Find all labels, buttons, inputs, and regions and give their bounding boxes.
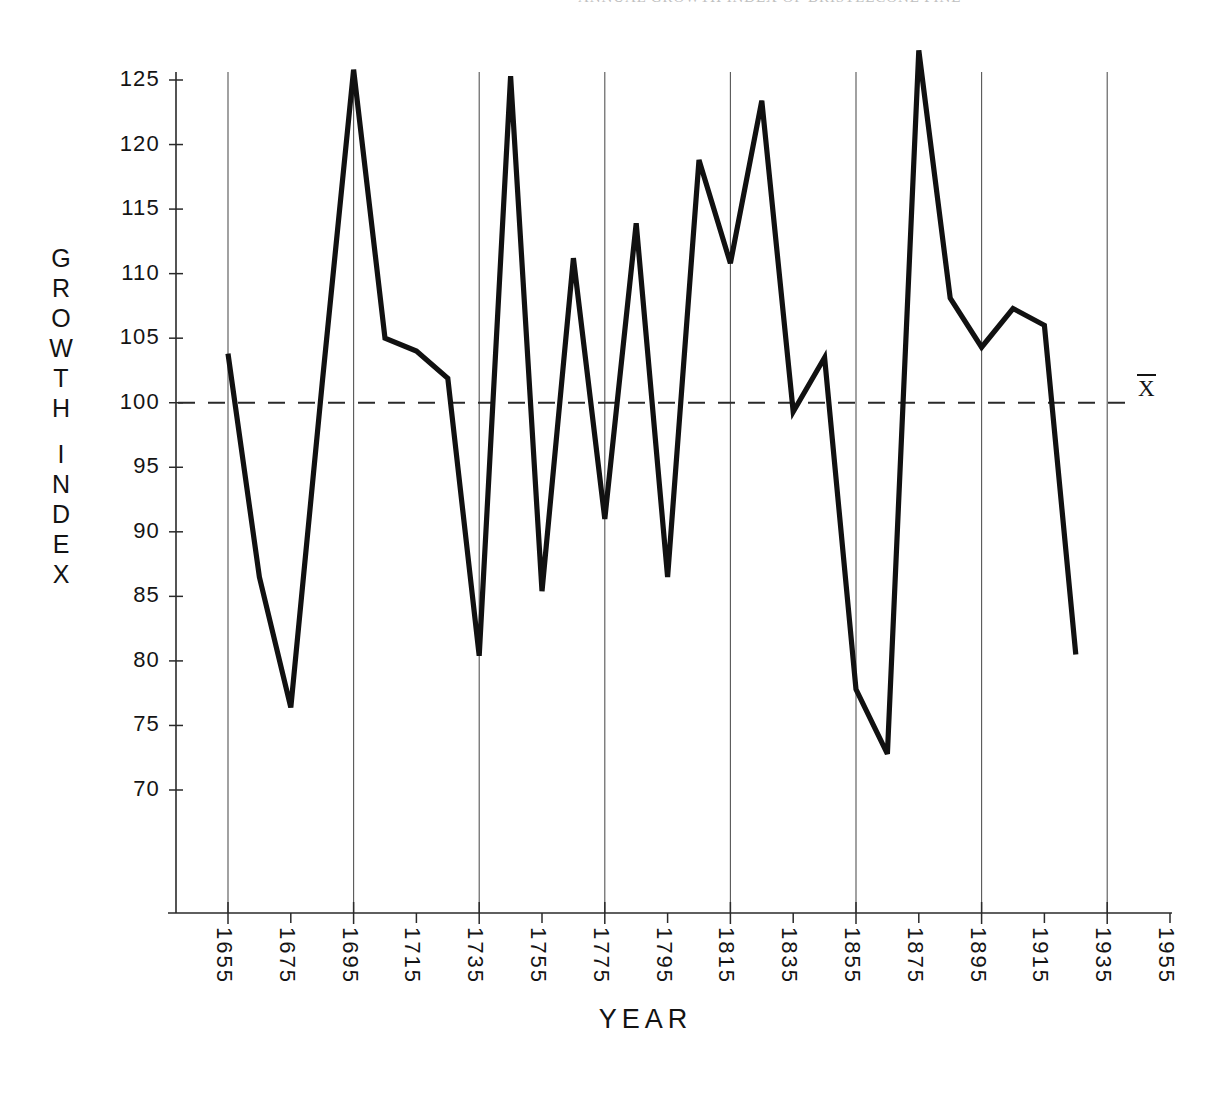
data-series-layer (228, 50, 1076, 754)
x-tick-label-1775: 1775 (588, 927, 614, 984)
series-line-0 (228, 50, 1076, 754)
x-tick-label-1915: 1915 (1027, 927, 1053, 984)
y-tick-label-105: 105 (106, 324, 160, 350)
x-tick-label-1695: 1695 (337, 927, 363, 984)
y-tick-label-100: 100 (106, 389, 160, 415)
y-tick-label-80: 80 (106, 647, 160, 673)
y-tick-label-120: 120 (106, 131, 160, 157)
x-tick-label-1855: 1855 (839, 927, 865, 984)
mean-line-label-text: X (1136, 377, 1156, 400)
x-tick-label-1895: 1895 (965, 927, 991, 984)
x-tick-label-1655: 1655 (211, 927, 237, 984)
x-tick-label-1835: 1835 (776, 927, 802, 984)
x-tick-label-1675: 1675 (274, 927, 300, 984)
x-tick-label-1755: 1755 (525, 927, 551, 984)
x-tick-label-1815: 1815 (713, 927, 739, 984)
y-tick-label-110: 110 (106, 260, 160, 286)
x-axis-title: YEAR (0, 1004, 1231, 1035)
x-tick-label-1935: 1935 (1090, 927, 1116, 984)
x-tick-label-1955: 1955 (1153, 927, 1179, 984)
y-tick-label-115: 115 (106, 195, 160, 221)
x-tick-label-1795: 1795 (651, 927, 677, 984)
x-tick-label-1715: 1715 (399, 927, 425, 984)
y-tick-label-75: 75 (106, 711, 160, 737)
y-tick-label-70: 70 (106, 776, 160, 802)
mean-line-label: X (1136, 374, 1156, 400)
x-axis-title-text: YEAR (539, 1004, 693, 1034)
y-tick-label-125: 125 (106, 66, 160, 92)
y-tick-label-85: 85 (106, 582, 160, 608)
x-tick-label-1735: 1735 (462, 927, 488, 984)
x-tick-label-1875: 1875 (902, 927, 928, 984)
gridlines-layer (228, 72, 1107, 913)
y-tick-label-95: 95 (106, 453, 160, 479)
figure-growth-index: G R O W T H I N D E X 707580859095100105… (0, 0, 1231, 1097)
axis-layer (168, 72, 1172, 924)
y-tick-label-90: 90 (106, 518, 160, 544)
